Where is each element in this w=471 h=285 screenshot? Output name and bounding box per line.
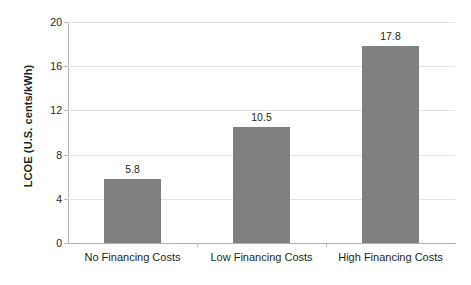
x-axis-tick-mark — [197, 243, 198, 247]
x-axis-tick-mark — [326, 243, 327, 247]
y-axis-tick-mark — [64, 66, 68, 67]
x-axis-category-label: Low Financing Costs — [210, 251, 312, 263]
y-axis-tick-label: 16 — [22, 60, 62, 72]
bar — [233, 127, 290, 243]
gridline — [68, 22, 455, 23]
y-axis-tick-mark — [64, 22, 68, 23]
bar — [104, 179, 161, 243]
y-axis-tick-mark — [64, 243, 68, 244]
bar-value-label: 10.5 — [251, 111, 271, 123]
plot-area — [68, 22, 455, 243]
y-axis-tick-label: 12 — [22, 104, 62, 116]
y-axis-tick-label: 20 — [22, 16, 62, 28]
bar — [362, 46, 419, 243]
y-axis-tick-label: 4 — [22, 193, 62, 205]
y-axis-tick-labels: 048121620 — [18, 0, 62, 285]
y-axis-tick-label: 0 — [22, 237, 62, 249]
bar-value-label: 5.8 — [125, 163, 140, 175]
bar-chart-figure: LCOE (U.S. cents/kWh) 048121620 5.810.51… — [0, 0, 471, 285]
bar-value-label: 17.8 — [380, 30, 400, 42]
y-axis-tick-label: 8 — [22, 149, 62, 161]
x-axis-category-label: No Financing Costs — [85, 251, 181, 263]
x-axis-category-label: High Financing Costs — [338, 251, 443, 263]
x-axis-line — [68, 243, 456, 244]
y-axis-tick-mark — [64, 110, 68, 111]
y-axis-tick-mark — [64, 199, 68, 200]
y-axis-tick-mark — [64, 155, 68, 156]
